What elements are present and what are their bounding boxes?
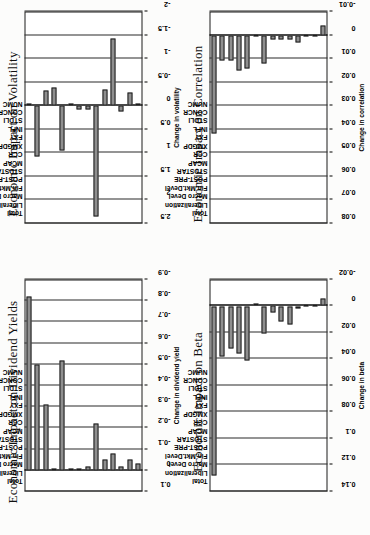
value-tick-label: -0.7 <box>158 309 170 318</box>
value-tick-label: -0.02 <box>339 267 355 276</box>
tick-mark <box>144 57 147 58</box>
zero-line <box>24 104 142 105</box>
value-tick-label: 0.5 <box>160 117 170 126</box>
category-label: POST-PRE <box>174 175 207 182</box>
category-label: INFL <box>192 393 207 400</box>
gridline <box>24 34 142 35</box>
value-tick-label: -1 <box>164 46 170 55</box>
value-axis-label: Change in beta <box>357 279 364 491</box>
gridline <box>209 151 327 152</box>
bar-concr <box>312 304 317 306</box>
tick-mark <box>329 175 332 176</box>
value-tick-label: 2.5 <box>160 211 170 220</box>
value-tick-label: 1.5 <box>160 164 170 173</box>
bar-xmgdp <box>278 35 283 40</box>
tick-mark <box>144 278 147 279</box>
plot-area <box>24 11 142 223</box>
value-tick-label: 0.08 <box>341 211 355 220</box>
plot-border <box>209 11 327 223</box>
gridline <box>24 384 142 385</box>
tick-mark <box>329 222 332 223</box>
tick-mark <box>329 81 332 82</box>
category-label: NUMC <box>2 100 22 107</box>
bar-infl <box>295 35 300 42</box>
value-tick-label: 0 <box>351 294 355 303</box>
value-axis-ticks: 0.080.070.060.050.040.030.020.010-0.01 <box>329 11 359 223</box>
gridline <box>209 464 327 465</box>
gridline <box>24 151 142 152</box>
category-label: XMGDP <box>0 142 22 149</box>
gridline <box>24 57 142 58</box>
tick-mark <box>144 81 147 82</box>
bar-macro-devel <box>43 404 48 470</box>
bar-concr <box>312 34 317 36</box>
tick-mark <box>144 175 147 176</box>
category-label: Fin.Mkt.Devel <box>0 452 22 459</box>
gridline <box>209 198 327 199</box>
tick-mark <box>329 411 332 412</box>
bar-ccr <box>85 105 90 108</box>
value-tick-label: -0.8 <box>158 288 170 297</box>
category-label: POST-PRE <box>0 443 22 450</box>
category-label: XMGDP <box>183 142 207 149</box>
bar-infl <box>295 306 300 309</box>
bar-mcap <box>261 35 266 63</box>
bar-concr <box>127 92 132 105</box>
category-axis: NUMCCONCRSTDLIINFLFXYXMGDPCCRMCAPSTDSTAR… <box>185 279 209 491</box>
tick-mark <box>144 320 147 321</box>
gridline <box>209 384 327 385</box>
category-label: STDLI <box>3 384 22 391</box>
bar-post-pre <box>244 306 249 360</box>
bar-stdstar <box>68 103 73 105</box>
value-axis-ticks: 0.140.120.10.080.060.040.020-0.02 <box>329 279 359 491</box>
category-label: Total <box>7 477 22 484</box>
category-label: CCR <box>8 418 22 425</box>
bar-xmgdp <box>278 306 283 322</box>
tick-mark <box>144 469 147 470</box>
category-label: Macro Devel <box>168 192 207 199</box>
bar-total <box>211 306 216 476</box>
value-tick-label: 0.01 <box>341 46 355 55</box>
tick-mark <box>144 384 147 385</box>
value-tick-label: -0.01 <box>339 0 355 8</box>
gridline <box>24 426 142 427</box>
category-label: Liberalization <box>0 469 22 476</box>
gridline <box>24 405 142 406</box>
bar-stdli <box>303 304 308 306</box>
gridline <box>24 320 142 321</box>
bar-post-pre <box>59 105 64 150</box>
bar-fin-mkt-devel <box>236 35 241 70</box>
category-label: CCR <box>193 150 207 157</box>
category-label: STDSTAR <box>0 167 22 174</box>
category-label: Total <box>7 209 22 216</box>
tick-mark <box>329 10 332 11</box>
category-label: MCAP <box>3 427 22 434</box>
tick-mark <box>329 384 332 385</box>
category-label: CONCR <box>183 108 207 115</box>
gridline <box>24 222 142 223</box>
category-axis: NUMCCONCRSTDLIINFLFXYXMGDPCCRMCAPSTDSTAR… <box>0 279 24 491</box>
category-label: Macro Devel <box>0 460 22 467</box>
category-label: STDLI <box>188 384 207 391</box>
bar-fin-mkt-devel <box>51 468 56 470</box>
value-tick-label: -0.1 <box>158 437 170 446</box>
category-label: FXY <box>194 401 207 408</box>
bar-mcap <box>261 306 266 334</box>
gridline <box>24 128 142 129</box>
value-tick-label: 0.14 <box>341 479 355 488</box>
category-label: Liberalization <box>165 469 208 476</box>
tick-mark <box>144 151 147 152</box>
category-label: INFL <box>7 393 22 400</box>
bar-fxy <box>287 35 292 40</box>
gridline <box>209 81 327 82</box>
category-label: STDSTAR <box>176 435 207 442</box>
category-axis: NUMCCONCRSTDLIINFLFXYXMGDPCCRMCAPSTDSTAR… <box>185 11 209 223</box>
category-label: CONCR <box>0 108 22 115</box>
bar-fxy <box>102 89 107 105</box>
category-label: CONCR <box>0 376 22 383</box>
gridline <box>209 222 327 223</box>
gridline <box>209 411 327 412</box>
gridline <box>209 128 327 129</box>
tick-mark <box>329 490 332 491</box>
bar-liberalization <box>219 35 224 61</box>
